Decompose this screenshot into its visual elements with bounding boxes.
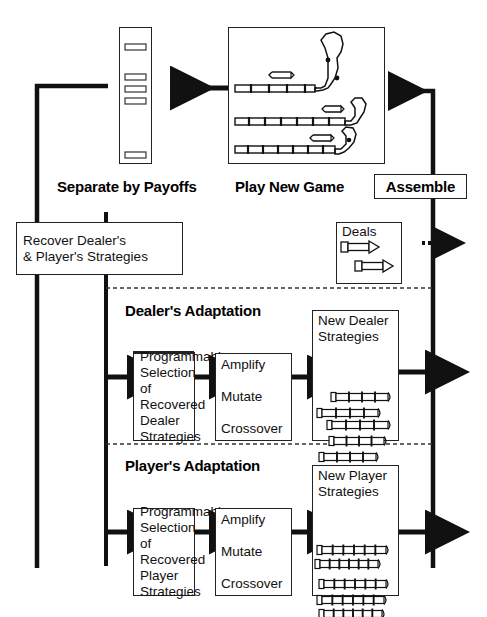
payoff-segment-0 xyxy=(125,44,146,50)
dealer-strategy-bar-2 xyxy=(327,420,390,431)
player-sel-line-1: Programmable xyxy=(140,504,190,520)
dealer-adaptation-title: Dealer's Adaptation xyxy=(125,302,261,319)
game-tracks-icon xyxy=(228,27,385,164)
player-strategy-bar-3 xyxy=(317,595,386,606)
new-player-strategies-box: New Player Strategies xyxy=(312,465,399,596)
deal-arrow-icon xyxy=(337,240,399,278)
dealer-selection-block: Programmable Selection of Recovered Deal… xyxy=(133,353,195,441)
recover-strategies-box: Recover Dealer's & Player's Strategies xyxy=(16,222,183,275)
payoff-column-icon xyxy=(119,27,152,164)
player-strategy-bars-icon xyxy=(313,500,398,592)
player-sel-line-2: Selection of xyxy=(140,520,190,552)
dealer-sel-line-1: Programmable xyxy=(140,349,190,365)
payoff-segment-2 xyxy=(125,86,146,92)
new-player-line-2: Strategies xyxy=(318,484,398,500)
player-selection-block: Programmable Selection of Recovered Play… xyxy=(133,508,195,596)
player-operator-crossover: Crossover xyxy=(221,576,287,592)
deals-label: Deals xyxy=(342,224,401,240)
dealer-operator-amplify: Amplify xyxy=(221,357,287,373)
dealer-strategy-bar-4 xyxy=(319,452,378,463)
figure-canvas: Separate by Payoffs xyxy=(0,0,487,617)
payoff-segment-3 xyxy=(125,98,146,104)
player-sel-line-4: Player Strategies xyxy=(140,568,190,600)
separate-by-payoffs-label: Separate by Payoffs xyxy=(57,178,197,195)
assemble-label: Assemble xyxy=(383,178,458,195)
dealer-strategy-bar-3 xyxy=(329,436,386,447)
dealer-strategy-bar-0 xyxy=(331,392,390,403)
left-feedback-bus xyxy=(37,86,108,568)
assemble-box: Assemble xyxy=(374,174,467,199)
dealer-operator-mutate: Mutate xyxy=(221,389,287,405)
new-player-line-1: New Player xyxy=(318,468,398,484)
new-dealer-line-2: Strategies xyxy=(318,329,398,345)
game-tracks-art xyxy=(229,28,384,163)
recover-line-2: & Player's Strategies xyxy=(23,249,177,265)
player-sel-line-3: Recovered xyxy=(140,552,190,568)
player-strategy-bar-0 xyxy=(317,545,388,556)
new-dealer-line-1: New Dealer xyxy=(318,313,398,329)
dealer-strategy-bars-icon xyxy=(313,345,398,437)
payoff-segment-4 xyxy=(125,152,146,158)
payoff-segments xyxy=(120,28,151,163)
player-operator-amplify: Amplify xyxy=(221,512,287,528)
dealer-sel-line-3: Recovered xyxy=(140,397,190,413)
new-dealer-strategies-box: New Dealer Strategies xyxy=(312,310,399,441)
dealer-operators-box: Amplify Mutate Crossover xyxy=(215,353,292,441)
player-operator-mutate: Mutate xyxy=(221,544,287,560)
dealer-strategy-bar-1 xyxy=(317,408,380,419)
recover-line-1: Recover Dealer's xyxy=(23,233,177,249)
dealer-operator-crossover: Crossover xyxy=(221,421,287,437)
play-new-game-label: Play New Game xyxy=(235,178,344,195)
deals-box: Deals xyxy=(336,222,402,284)
player-operators-box: Amplify Mutate Crossover xyxy=(215,508,292,596)
dealer-sel-line-2: Selection of xyxy=(140,365,190,397)
player-strategy-bar-1 xyxy=(315,559,380,570)
player-adaptation-title: Player's Adaptation xyxy=(125,457,260,474)
dealer-sel-line-4: Dealer Strategies xyxy=(140,413,190,445)
player-strategy-bar-2 xyxy=(319,579,388,590)
payoff-segment-1 xyxy=(125,74,146,80)
